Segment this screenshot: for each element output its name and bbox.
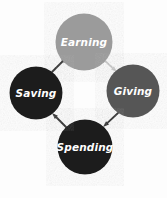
node-earning[interactable]: Earning — [56, 14, 113, 71]
diagram-canvas: Earning Giving Spending Saving — [0, 0, 167, 198]
node-label-giving: Giving — [114, 85, 153, 97]
node-label-spending: Spending — [57, 141, 114, 153]
node-label-saving: Saving — [16, 87, 57, 99]
node-giving[interactable]: Giving — [107, 65, 160, 118]
money-cycle-diagram: Earning Giving Spending Saving — [0, 0, 167, 198]
node-saving[interactable]: Saving — [10, 67, 63, 120]
node-label-earning: Earning — [61, 36, 108, 48]
